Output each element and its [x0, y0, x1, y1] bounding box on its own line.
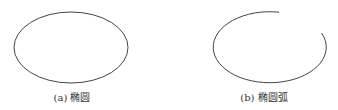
caption-elliptical-arc: (b) 椭圆弧: [224, 90, 304, 106]
elliptical-arc-shape: [213, 12, 326, 83]
ellipse-shape: [14, 12, 128, 83]
caption-ellipse: (a) 椭圆: [32, 90, 112, 106]
